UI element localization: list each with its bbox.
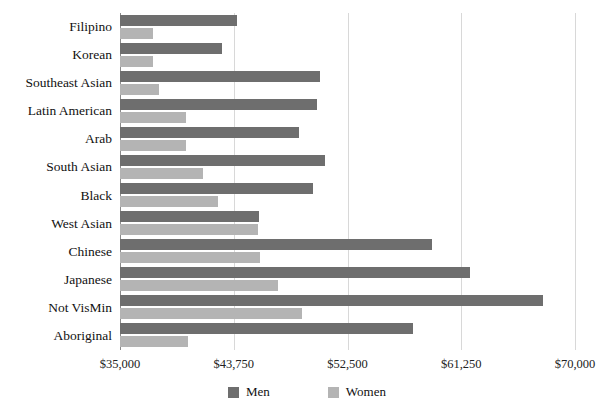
bar-men (120, 211, 259, 222)
category-label: South Asian (46, 160, 112, 174)
category-label: Korean (72, 48, 112, 62)
bar-men (120, 267, 470, 278)
bar-women (120, 308, 302, 319)
bar-group (120, 69, 575, 97)
bar-group (120, 182, 575, 210)
bar-group (120, 210, 575, 238)
bar-women (120, 84, 159, 95)
bar-chart: FilipinoKoreanSoutheast AsianLatin Ameri… (0, 0, 614, 406)
bar-men (120, 295, 543, 306)
category-label: West Asian (51, 217, 112, 231)
legend-item: Women (328, 384, 386, 400)
chart-legend: MenWomen (0, 384, 614, 400)
x-tick-label: $70,000 (555, 357, 596, 372)
category-label: Arab (85, 132, 112, 146)
bar-women (120, 112, 186, 123)
category-label: Chinese (69, 245, 113, 259)
legend-swatch-icon (228, 387, 239, 398)
category-label: Filipino (69, 20, 112, 34)
category-label: Japanese (64, 273, 112, 287)
legend-label: Men (246, 384, 270, 400)
bar-group (120, 238, 575, 266)
legend-swatch-icon (328, 387, 339, 398)
bar-men (120, 99, 317, 110)
bar-group (120, 13, 575, 41)
legend-label: Women (346, 384, 386, 400)
bar-men (120, 323, 413, 334)
category-label: Southeast Asian (25, 76, 112, 90)
x-tick-label: $43,750 (213, 357, 254, 372)
gridline (575, 13, 576, 350)
bar-women (120, 336, 188, 347)
legend-item: Men (228, 384, 270, 400)
bar-women (120, 56, 153, 67)
x-tick-label: $35,000 (100, 357, 141, 372)
bar-group (120, 266, 575, 294)
bar-women (120, 224, 258, 235)
bar-men (120, 15, 237, 26)
category-label: Not VisMin (48, 301, 112, 315)
bar-group (120, 97, 575, 125)
plot-area (120, 13, 575, 350)
bar-men (120, 43, 222, 54)
bar-group (120, 125, 575, 153)
category-label: Latin American (28, 104, 112, 118)
bar-group (120, 322, 575, 350)
bar-men (120, 239, 432, 250)
category-label: Aboriginal (54, 329, 113, 343)
bar-group (120, 294, 575, 322)
category-label: Black (81, 189, 113, 203)
bar-women (120, 196, 218, 207)
bar-women (120, 28, 153, 39)
bar-men (120, 127, 299, 138)
x-tick-label: $52,500 (327, 357, 368, 372)
bar-women (120, 168, 203, 179)
x-tick-label: $61,250 (441, 357, 482, 372)
bar-women (120, 252, 260, 263)
bar-women (120, 280, 278, 291)
bar-men (120, 183, 313, 194)
bar-group (120, 41, 575, 69)
bar-men (120, 155, 325, 166)
bar-men (120, 71, 320, 82)
bar-group (120, 153, 575, 181)
bar-women (120, 140, 186, 151)
